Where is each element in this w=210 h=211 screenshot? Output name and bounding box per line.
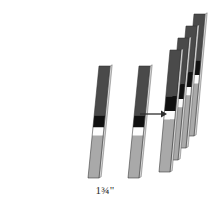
strip-left-single bbox=[88, 65, 112, 178]
strip-middle-single bbox=[128, 65, 152, 178]
strips-layer bbox=[88, 13, 207, 178]
strip-middle-single-band-black bbox=[133, 115, 145, 127]
strip-stack-4-front-band-white bbox=[164, 111, 176, 120]
dimension-label: 1¾" bbox=[0, 184, 210, 197]
strip-left-single-band-black bbox=[93, 115, 105, 127]
strip-stack-4-front-band-black bbox=[165, 96, 177, 111]
strip-diagram-canvas bbox=[0, 0, 210, 211]
strip-middle-single-band-white bbox=[132, 128, 144, 136]
strip-left-single-band-white bbox=[92, 128, 104, 136]
figure-root: 1¾" bbox=[0, 0, 210, 211]
